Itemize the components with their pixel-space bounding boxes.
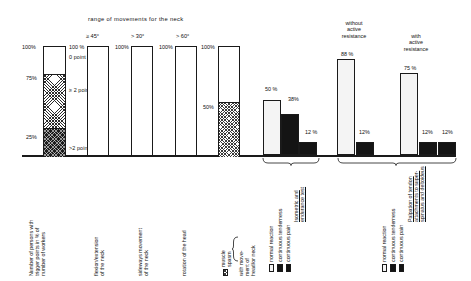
value-label-pal-75: 75 % — [404, 66, 416, 71]
chart-root: range of movements for the neck 100% 75%… — [0, 0, 471, 281]
legend-item[interactable]: continuous tenderness — [277, 182, 286, 272]
legend-swatch-normal-reaction — [269, 265, 274, 273]
legend-item[interactable]: continuous tenderness — [390, 182, 399, 272]
value-label-muscle-spasm-50: 50% — [203, 105, 214, 110]
segment-label-zero-point: 0 point — [69, 54, 86, 60]
bar-segment-zero-point — [44, 47, 65, 75]
legend-item[interactable]: normal reaction — [381, 182, 390, 272]
legend-title-isometric: Isometric and endurance test — [293, 187, 305, 222]
value-label-pal-12b: 12% — [422, 130, 433, 135]
axis-tick-100: 100% — [22, 45, 36, 50]
bar-palpation-without-resistance-tenderness[interactable] — [356, 142, 374, 155]
bar-isometric-normal-reaction[interactable] — [263, 100, 281, 155]
legend-swatch-continuous-pain — [399, 265, 404, 273]
bar-segment-muscle-spasm — [219, 102, 239, 157]
bar-palpation-with-resistance-tenderness[interactable] — [419, 142, 437, 155]
category-label-muscle-spasm-block: muscle spasm — [222, 166, 231, 276]
bar-palpation-with-resistance-pain[interactable] — [438, 142, 456, 155]
group-header-with-active-resistance: with active resistance — [395, 33, 437, 52]
legend-item[interactable]: normal reaction — [268, 182, 277, 272]
axis-tick-75: 75% — [26, 76, 37, 81]
muscle-spasm-swatch — [223, 269, 228, 276]
legend-label-continuous-pain: continuous pain — [398, 225, 404, 262]
angle-label-rotation: > 60° — [176, 33, 189, 39]
legend-title-palpation: Palpation of tendon attachments to super… — [407, 166, 425, 222]
bar-rotation-of-head[interactable] — [175, 46, 197, 156]
category-label-rotation-of-head: rotation of the head — [181, 230, 187, 276]
legend-swatch-continuous-tenderness — [277, 265, 282, 273]
bar-segment-ge-2-points — [44, 74, 65, 129]
bar-segment-gt-2-points — [44, 129, 65, 157]
legend-label-normal-reaction: normal reaction — [381, 225, 387, 262]
value-label-rotation: 100% — [159, 45, 173, 50]
legend-item[interactable]: continuous pain — [398, 182, 407, 272]
bar-trigger-points[interactable] — [43, 46, 66, 156]
bar-flexion-extension[interactable] — [87, 46, 109, 156]
bar-sideways-movement[interactable] — [131, 46, 153, 156]
legend-swatch-continuous-tenderness — [390, 265, 395, 273]
bar-isometric-continuous-tenderness[interactable] — [281, 114, 299, 156]
legend-label-normal-reaction: normal reaction — [268, 225, 274, 262]
category-label-flexion-extension: flexion/extension of the neck — [93, 237, 105, 276]
value-label-pal-12a: 12% — [359, 130, 370, 135]
bar-segment-muscle-spasm-upper — [219, 47, 239, 102]
value-label-sideways: 100% — [115, 45, 129, 50]
brace-palpation — [337, 157, 457, 166]
angle-label-sideways: > 30° — [131, 33, 144, 39]
legend-palpation: normal reaction continuous tenderness co… — [381, 182, 407, 272]
brace-isometric — [262, 157, 320, 166]
value-label-iso-38: 38% — [288, 97, 299, 102]
bar-palpation-without-resistance-normal[interactable] — [337, 59, 355, 156]
group-header-without-active-resistance: without active resistance — [331, 20, 377, 39]
muscle-spasm-brace — [232, 236, 239, 262]
muscle-spasm-label: muscle spasm — [221, 250, 233, 267]
legend-swatch-continuous-pain — [286, 265, 291, 273]
value-label-flexion: 100 % — [69, 45, 84, 50]
bar-muscle-spasm[interactable] — [218, 46, 240, 156]
chart-title: range of movements for the neck — [88, 16, 184, 22]
axis-tick-25: 25% — [26, 135, 37, 140]
category-label-trigger-points: Number of persons with trigger points in… — [28, 220, 46, 276]
legend-isometric: normal reaction continuous tenderness co… — [268, 182, 294, 272]
legend-swatch-normal-reaction — [382, 265, 387, 273]
value-label-iso-12: 12 % — [305, 130, 317, 135]
value-label-pal-12c: 12% — [442, 130, 453, 135]
legend-label-continuous-pain: continuous pain — [285, 225, 291, 262]
bar-isometric-continuous-pain[interactable] — [299, 142, 317, 155]
value-label-pal-88: 88 % — [341, 52, 353, 57]
value-label-iso-50: 50 % — [265, 87, 277, 92]
legend-label-continuous-tenderness: continuous tenderness — [277, 209, 283, 262]
legend-label-continuous-tenderness: continuous tenderness — [390, 209, 396, 262]
bar-palpation-with-resistance-normal[interactable] — [400, 73, 418, 156]
angle-label-flexion: ≥ 45° — [86, 33, 99, 39]
category-label-sideways-movement: sideways movement of the neck — [137, 228, 149, 276]
value-label-muscle-spasm-100: 100% — [201, 45, 215, 50]
muscle-spasm-movement-label: with move- ment of head/or neck — [238, 245, 256, 276]
